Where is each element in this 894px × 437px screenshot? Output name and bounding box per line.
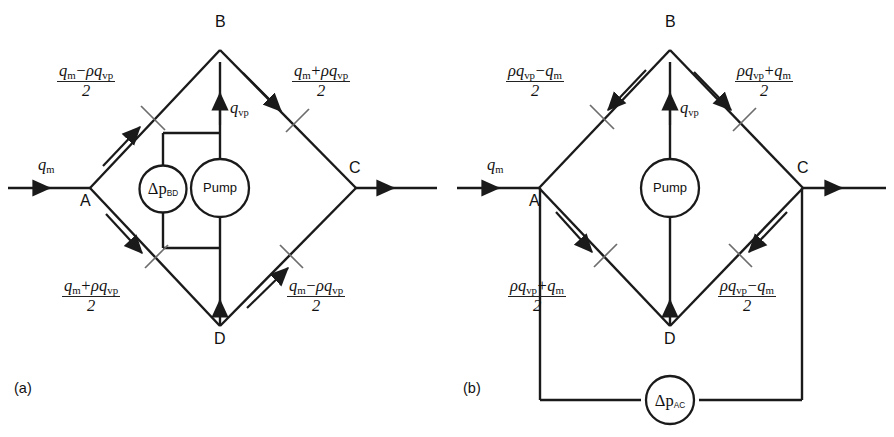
rho-symbol: ρ [737,61,745,80]
fraction-denominator: 2 [508,297,566,315]
rho-symbol: ρ [91,276,99,295]
q-symbol: q [94,61,102,80]
panel-b-branch-label-top-left: ρqvp−qm 2 [506,63,564,99]
q-symbol: q [230,98,238,117]
tick-a-dc [280,245,303,268]
q-subscript: m [556,284,564,296]
fraction: qm−ρqvp 2 [287,278,345,314]
flow-arrow-b-ba [608,70,646,110]
panel-a-node-label-d: D [214,331,226,347]
q-symbol: q [329,61,337,80]
fraction: qm+ρqvp 2 [62,278,120,314]
fraction-denominator: 2 [506,82,564,100]
q-subscript: m [554,69,562,81]
panel-b-node-label-b: B [665,14,676,30]
fraction: qm+ρqvp 2 [292,63,350,99]
panel-a-center-flow-label: qvp [230,100,249,117]
fraction-numerator: qm−ρqvp [287,278,345,297]
panel-b-node-label-d: D [664,331,676,347]
fraction-numerator: ρqvp−qm [506,63,564,82]
tick-a-ab [141,106,165,130]
fraction-numerator: ρqvp+qm [735,63,793,82]
q-subscript: vp [736,284,747,296]
q-subscript: vp [753,69,764,81]
q-symbol: q [680,98,688,117]
fraction: qm−ρqvp 2 [57,63,115,99]
panel-a-node-label-c: C [349,160,361,176]
operator: + [764,61,774,80]
q-symbol: q [289,276,297,295]
tick-b-cd [729,244,752,267]
operator: − [747,276,757,295]
fraction-numerator: ρqvp+qm [508,278,566,297]
pump-label-a: Pump [195,181,245,194]
q-symbol: q [487,155,495,174]
panel-b-caption: (b) [463,381,481,396]
fraction-numerator: qm+ρqvp [62,278,120,297]
tick-b-ad [594,244,617,267]
flow-arrow-b-ad [556,212,592,252]
panel-b-graphics [457,50,886,424]
panel-b-inlet-flow-label: qm [487,157,503,174]
delta-p-symbol: Δp [148,179,167,198]
panel-b-center-flow-label: qvp [680,100,699,117]
q-symbol: q [64,276,72,295]
panel-b-node-label-a: A [529,193,540,209]
operator: − [535,61,545,80]
fraction-numerator: ρqvp−qm [718,278,776,297]
operator: + [537,276,547,295]
fraction-denominator: 2 [292,82,350,100]
panel-a-branch-label-bottom-right: qm−ρqvp 2 [287,278,345,314]
q-subscript: m [67,69,75,81]
fraction-numerator: qm+ρqvp [292,63,350,82]
operator: − [76,61,86,80]
rho-symbol: ρ [720,276,728,295]
fraction-denominator: 2 [57,82,115,100]
panel-b-branch-label-bottom-right: ρqvp−qm 2 [718,278,776,314]
q-symbol: q [516,61,524,80]
q-subscript: vp [102,69,113,81]
q-subscript-vp: vp [238,107,249,118]
q-subscript: vp [332,284,343,296]
dp-ac-meter-label: ΔpAC [647,393,693,410]
operator: + [311,61,321,80]
q-subscript: vp [524,69,535,81]
panel-a-node-label-a: A [80,193,91,209]
q-symbol: q [518,276,526,295]
q-symbol: q [324,276,332,295]
rho-symbol: ρ [86,61,94,80]
rho-symbol: ρ [316,276,324,295]
flow-arrow-a-ad [106,214,142,253]
q-subscript: m [766,284,774,296]
panel-a-inlet-flow-label: qm [38,157,54,174]
q-subscript: m [72,284,80,296]
panel-b-branch-label-top-right: ρqvp+qm 2 [735,63,793,99]
panel-b-branch-label-bottom-left: ρqvp+qm 2 [508,278,566,314]
panel-a-node-label-b: B [215,14,226,30]
fraction-denominator: 2 [287,297,345,315]
q-subscript-m: m [46,164,54,175]
rho-symbol: ρ [510,276,518,295]
fraction-denominator: 2 [62,297,120,315]
delta-p-symbol: Δp [655,391,674,410]
delta-p-subscript: AC [674,401,685,410]
q-symbol: q [59,61,67,80]
q-symbol: q [757,276,765,295]
fraction-denominator: 2 [718,297,776,315]
pump-label-b: Pump [645,181,695,194]
rho-symbol: ρ [508,61,516,80]
q-subscript: vp [337,69,348,81]
dp-bd-meter-label: ΔpBD [140,181,186,198]
q-symbol: q [99,276,107,295]
delta-p-subscript: BD [167,189,178,198]
q-symbol: q [294,61,302,80]
operator: − [306,276,316,295]
fraction: ρqvp−qm 2 [718,278,776,314]
q-symbol: q [547,276,555,295]
q-subscript: vp [107,284,118,296]
q-subscript: m [297,284,305,296]
q-symbol: q [728,276,736,295]
q-symbol: q [545,61,553,80]
flow-arrow-b-bc [694,72,731,110]
flow-arrow-a-dc [247,268,288,308]
